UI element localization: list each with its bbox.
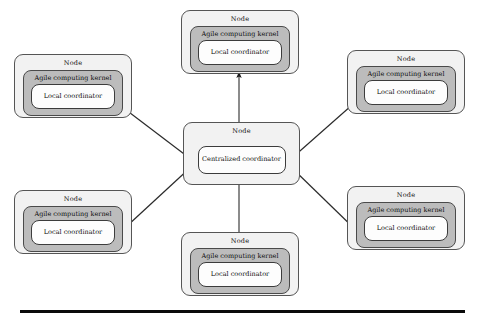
node-bottom-label: Node [231,238,249,245]
node-top-local-coordinator[interactable]: Local coordinator [198,40,282,65]
node-top[interactable]: Node Agile computing kernel Local coordi… [181,10,299,74]
node-top-kernel[interactable]: Agile computing kernel Local coordinator [190,26,290,72]
node-right-bottom-kernel-label: Agile computing kernel [367,207,444,214]
node-right-top-local-coordinator-label: Local coordinator [377,88,435,96]
node-bottom[interactable]: Node Agile computing kernel Local coordi… [181,232,299,296]
node-left-bottom-local-coordinator-label: Local coordinator [44,228,102,236]
node-left-top-kernel[interactable]: Agile computing kernel Local coordinator [23,70,123,116]
node-left-bottom-kernel[interactable]: Agile computing kernel Local coordinator [23,206,123,252]
centralized-coordinator-label: Centralized coordinator [202,155,281,163]
node-left-bottom[interactable]: Node Agile computing kernel Local coordi… [14,190,132,254]
node-center-label: Node [232,128,250,135]
node-right-bottom-label: Node [397,192,415,199]
node-left-bottom-local-coordinator[interactable]: Local coordinator [31,220,115,245]
node-right-top-local-coordinator[interactable]: Local coordinator [364,80,448,105]
centralized-coordinator[interactable]: Centralized coordinator [198,146,286,174]
node-bottom-local-coordinator[interactable]: Local coordinator [198,262,282,287]
node-top-label: Node [231,16,249,23]
diagram-canvas: Node Agile computing kernel Local coordi… [0,0,480,323]
node-right-top-kernel[interactable]: Agile computing kernel Local coordinator [356,66,456,112]
node-bottom-kernel[interactable]: Agile computing kernel Local coordinator [190,248,290,294]
node-right-bottom-local-coordinator-label: Local coordinator [377,224,435,232]
node-left-top-kernel-label: Agile computing kernel [34,75,111,82]
node-top-kernel-label: Agile computing kernel [201,31,278,38]
node-top-local-coordinator-label: Local coordinator [211,48,269,56]
node-left-bottom-label: Node [64,196,82,203]
bottom-divider-rule [20,310,465,313]
node-right-top-kernel-label: Agile computing kernel [367,71,444,78]
node-right-top-label: Node [397,56,415,63]
node-left-top-local-coordinator[interactable]: Local coordinator [31,84,115,109]
node-left-bottom-kernel-label: Agile computing kernel [34,211,111,218]
node-left-top[interactable]: Node Agile computing kernel Local coordi… [14,54,132,118]
node-left-top-label: Node [64,60,82,67]
node-right-bottom[interactable]: Node Agile computing kernel Local coordi… [347,186,465,250]
node-right-top[interactable]: Node Agile computing kernel Local coordi… [347,50,465,114]
node-right-bottom-local-coordinator[interactable]: Local coordinator [364,216,448,241]
node-bottom-kernel-label: Agile computing kernel [201,253,278,260]
node-right-bottom-kernel[interactable]: Agile computing kernel Local coordinator [356,202,456,248]
node-center[interactable]: Node Centralized coordinator [183,122,300,185]
node-bottom-local-coordinator-label: Local coordinator [211,270,269,278]
node-left-top-local-coordinator-label: Local coordinator [44,92,102,100]
